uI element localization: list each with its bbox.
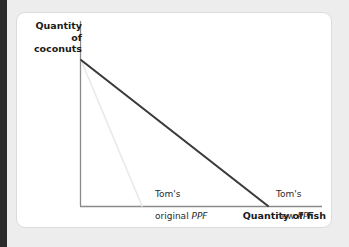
original-ppf-label: Tom's original PPF xyxy=(155,178,230,222)
original-ppf-label-line1: Tom's xyxy=(155,189,180,199)
y-axis-label: Quantity of coconuts xyxy=(24,20,82,55)
new-ppf-label-line1: Tom's xyxy=(276,189,301,199)
original-ppf-label-line2-plain: original xyxy=(155,211,192,221)
figure-screenshot: Quantity of coconuts Quantity of fish To… xyxy=(0,0,349,247)
page-gutter-bar xyxy=(0,0,7,247)
new-ppf-label-line2-italic: PPF xyxy=(297,211,313,221)
new-ppf-label-line2-plain: new xyxy=(276,211,297,221)
original-ppf-label-line2-italic: PPF xyxy=(192,211,208,221)
new-ppf-label: Tom's new PPF xyxy=(276,178,336,222)
